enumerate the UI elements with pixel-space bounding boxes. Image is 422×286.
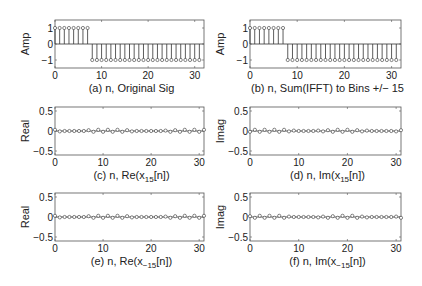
x-tick-label: 0 (247, 157, 253, 168)
stem-marker (307, 129, 310, 132)
stem-marker (82, 129, 85, 132)
stem-marker (111, 130, 114, 133)
stem-marker (106, 128, 109, 131)
y-tick-label: −1 (237, 55, 249, 66)
stem-marker (169, 216, 172, 219)
x-tick-label: 0 (247, 70, 253, 81)
stem-marker (281, 26, 284, 29)
stem-marker (321, 130, 324, 133)
stem-marker (248, 215, 251, 218)
stem-marker (253, 216, 256, 219)
stem-marker (150, 215, 153, 218)
x-tick-label: 30 (391, 157, 403, 168)
x-tick-label: 30 (391, 243, 403, 254)
stem-marker (77, 26, 80, 29)
stem-marker (101, 216, 104, 219)
y-tick-label: −0.5 (228, 146, 248, 157)
stem-marker (116, 214, 119, 217)
subplot-c: 0102030−0.500.5Real(c) n, Re(x15[n]) (19, 106, 206, 185)
stem-marker (253, 26, 256, 29)
stem-marker (174, 58, 177, 61)
x-axis-caption: (c) n, Re(x15[n]) (93, 169, 169, 184)
stem-marker (346, 128, 349, 131)
stem-marker (312, 129, 315, 132)
stem-marker (87, 129, 90, 132)
stem-marker (365, 129, 368, 132)
stem-marker (336, 128, 339, 131)
stem-marker (380, 215, 383, 218)
stem-marker (287, 130, 290, 133)
stem-marker (92, 216, 95, 219)
stem-marker (140, 215, 143, 218)
stem-marker (147, 58, 150, 61)
stem-marker (105, 58, 108, 61)
stem-marker (248, 26, 251, 29)
stem-marker (133, 58, 136, 61)
stem-marker (390, 215, 393, 218)
stem-marker (292, 129, 295, 132)
x-tick-label: 10 (98, 157, 110, 168)
stem-marker (346, 216, 349, 219)
stem-marker (370, 129, 373, 132)
stem-marker (77, 215, 80, 218)
stem-marker (121, 130, 124, 133)
y-axis-label: Real (19, 206, 31, 229)
stem-marker (63, 215, 66, 218)
y-axis-label: Amp (19, 33, 31, 56)
y-tick-label: −0.5 (228, 232, 248, 243)
stem-marker (336, 216, 339, 219)
stem-marker (183, 214, 186, 217)
stem-marker (193, 214, 196, 217)
stem-marker (385, 215, 388, 218)
stem-marker (366, 58, 369, 61)
y-tick-label: 0.5 (39, 192, 53, 203)
stem-marker (125, 129, 128, 132)
stem-marker (317, 129, 320, 132)
stem-marker (329, 58, 332, 61)
y-tick-label: −0.5 (33, 232, 53, 243)
x-tick-label: 20 (342, 157, 354, 168)
stem-marker (302, 215, 305, 218)
stem-marker (109, 58, 112, 61)
stem-marker (300, 58, 303, 61)
stem-marker (380, 129, 383, 132)
stem-marker (188, 216, 191, 219)
stem-marker (73, 129, 76, 132)
stem-marker (375, 129, 378, 132)
stem-marker (67, 26, 70, 29)
y-axis-label: Real (19, 120, 31, 143)
stem-marker (178, 130, 181, 133)
stem-marker (376, 58, 379, 61)
stem-marker (267, 26, 270, 29)
stem-marker (170, 58, 173, 61)
x-tick-label: 0 (52, 70, 58, 81)
stem-marker (333, 58, 336, 61)
x-tick-label: 10 (292, 70, 304, 81)
stem-marker (130, 130, 133, 133)
stem-marker (296, 58, 299, 61)
stem-marker (277, 26, 280, 29)
stem-marker (179, 58, 182, 61)
stem-marker (142, 58, 145, 61)
stem-marker (95, 58, 98, 61)
stem-marker (390, 129, 393, 132)
stem-marker (169, 130, 172, 133)
stem-marker (164, 215, 167, 218)
x-tick-label: 30 (189, 70, 201, 81)
stem-marker (159, 129, 162, 132)
stem-marker (68, 129, 71, 132)
stem-marker (91, 58, 94, 61)
stem-marker (278, 214, 281, 217)
stem-marker (145, 215, 148, 218)
stem-marker (198, 58, 201, 61)
stem-marker (81, 26, 84, 29)
y-tick-label: 0.5 (234, 106, 248, 117)
stem-marker (258, 130, 261, 133)
stem-marker (137, 58, 140, 61)
stem-marker (360, 215, 363, 218)
stem-marker (360, 130, 363, 133)
stem-marker (248, 130, 251, 133)
stem-marker (154, 215, 157, 218)
stem-marker (150, 129, 153, 132)
stem-marker (324, 58, 327, 61)
